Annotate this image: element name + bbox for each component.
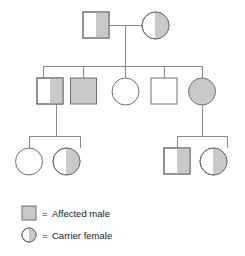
legend-label-carrier-female: Carrier female [52,230,112,241]
person-II-5[interactable] [189,78,216,105]
legend-equals-affected: = [42,208,48,219]
square-symbol [151,78,177,104]
shaded-square-icon [22,206,36,220]
person-II-4[interactable] [151,78,177,104]
circle-symbol [112,78,139,105]
person-I-2[interactable] [142,12,169,39]
person-III-2[interactable] [53,148,80,175]
legend-label-affected-male: Affected male [52,208,110,219]
generation-2-group [37,78,216,105]
circle-symbol-shaded [189,78,216,105]
legend-equals-carrier: = [42,230,48,241]
person-II-3[interactable] [112,78,139,105]
legend-item-affected-male: = Affected male [22,206,110,220]
generation-3-group [16,148,228,175]
pedigree-diagram: = Affected male = Carrier female [0,0,245,256]
person-III-3[interactable] [164,148,190,174]
person-II-2[interactable] [71,78,97,104]
square-symbol-shaded [71,78,97,104]
person-I-1[interactable] [83,12,109,38]
pedigree-canvas: = Affected male = Carrier female [0,0,245,256]
person-II-1[interactable] [37,78,63,104]
legend: = Affected male = Carrier female [22,206,112,242]
legend-item-carrier-female: = Carrier female [22,228,112,242]
circle-symbol [16,148,43,175]
person-III-4[interactable] [200,148,227,175]
person-III-1[interactable] [16,148,43,175]
